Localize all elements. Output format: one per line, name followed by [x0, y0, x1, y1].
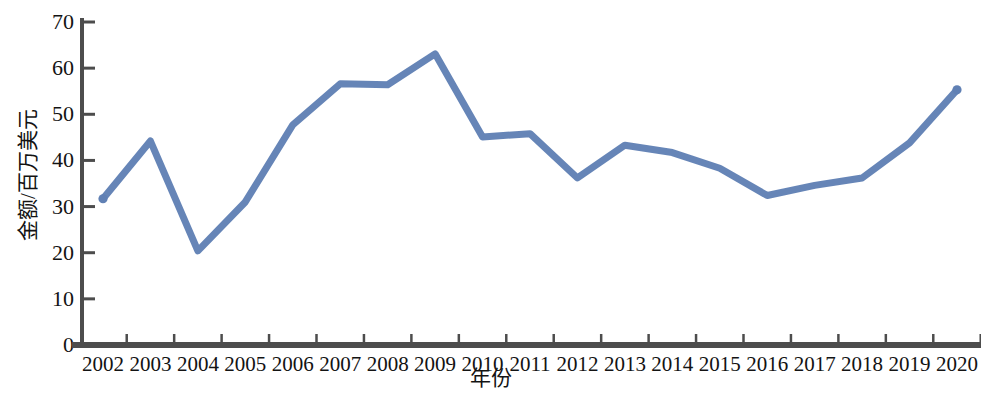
- x-axis-title: 年份: [0, 366, 981, 390]
- line-chart: 金额/百万美元 010203040506070 2002200320042005…: [0, 0, 981, 394]
- data-series-line: [103, 54, 957, 251]
- plot-area: [0, 0, 981, 394]
